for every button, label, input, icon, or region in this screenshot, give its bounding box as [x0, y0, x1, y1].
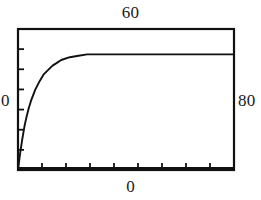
data-curve [18, 54, 234, 170]
plot-area [0, 0, 261, 200]
axes-frame [18, 29, 234, 170]
plot-frame-inner [20, 31, 232, 168]
plot-frame [18, 29, 234, 170]
chart-figure: 60 0 80 0 [0, 0, 261, 200]
